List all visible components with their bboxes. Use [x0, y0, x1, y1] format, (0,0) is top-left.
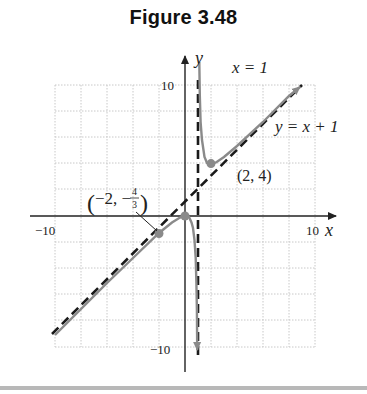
y-max-tick: 10	[161, 78, 174, 93]
y-min-tick: −10	[150, 342, 170, 357]
curve-left-branch	[55, 216, 197, 350]
inflection-close-paren: )	[140, 190, 148, 216]
x-axis-label: x	[324, 220, 333, 240]
inflection-open-paren: (	[87, 190, 95, 216]
inflection-label-prefix: −2, −	[95, 189, 131, 208]
point-local-max	[181, 212, 190, 221]
oblique-asymptote-label: y = x + 1	[273, 117, 339, 136]
x-min-tick: −10	[35, 223, 55, 238]
local-min-label: (2, 4)	[237, 167, 272, 185]
inflection-fraction-num: 4	[132, 186, 137, 197]
inflection-label: ( −2, − 4 3 )	[87, 186, 148, 216]
bottom-separator	[0, 386, 367, 390]
x-max-tick: 10	[306, 223, 319, 238]
curve-right-branch	[199, 62, 300, 164]
graph: y x 10 −10 −10 10 x = 1 y = x + 1 (2, 4)…	[0, 0, 367, 394]
inflection-fraction-den: 3	[132, 199, 137, 210]
vertical-asymptote-label: x = 1	[231, 58, 268, 77]
y-axis-label: y	[193, 48, 203, 68]
point-local-min	[207, 159, 216, 168]
